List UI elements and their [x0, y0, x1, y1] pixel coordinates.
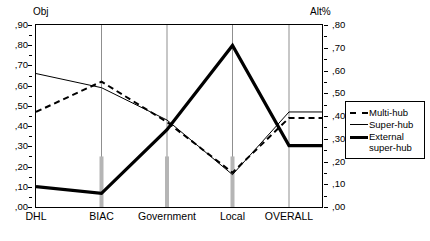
right-axis-tick-label: ,70: [332, 43, 345, 53]
left-axis-tick-label: ,30: [15, 141, 28, 151]
left-axis-tick-label: ,20: [15, 162, 28, 172]
left-axis-tick-label: ,10: [15, 182, 28, 192]
legend: Multi-hubSuper-hubExternal super-hub: [345, 101, 425, 159]
right-axis-tick-label: ,30: [332, 134, 345, 144]
right-axis-minor-tick: [324, 139, 327, 140]
left-axis-minor-tick: [29, 207, 32, 208]
right-axis-title: Alt%: [310, 6, 331, 17]
right-axis-minor-tick: [324, 127, 327, 128]
left-axis-minor-tick: [29, 167, 32, 168]
right-axis-tick-label: ,40: [332, 111, 345, 121]
right-axis-minor-tick: [324, 82, 327, 83]
category-label-government: Government: [138, 210, 196, 222]
legend-item: External super-hub: [349, 131, 421, 153]
right-axis-minor-tick: [324, 59, 327, 60]
left-axis-minor-tick: [29, 65, 32, 66]
right-axis-minor-tick: [324, 48, 327, 49]
category-label-dhl: DHL: [25, 210, 46, 222]
series-line-external-super-hub: [36, 45, 322, 193]
legend-item: Multi-hub: [349, 107, 421, 118]
right-axis-tick-label: ,80: [332, 20, 345, 30]
legend-label: Multi-hub: [369, 107, 408, 118]
series-line-super-hub: [36, 74, 322, 175]
category-label-local: Local: [220, 210, 245, 222]
legend-key-thick-solid-icon: [349, 131, 369, 142]
left-axis-tick-label: ,70: [15, 60, 28, 70]
right-axis-minor-tick: [324, 36, 327, 37]
right-axis-minor-tick: [324, 105, 327, 106]
right-axis-tick-label: ,20: [332, 157, 345, 167]
left-axis-minor-tick: [29, 116, 32, 117]
left-axis-minor-tick: [29, 136, 32, 137]
left-axis-title: Obj: [33, 6, 49, 17]
left-axis-tick-label: ,80: [15, 40, 28, 50]
right-axis-minor-tick: [324, 93, 327, 94]
left-axis-minor-tick: [29, 55, 32, 56]
left-axis-minor-tick: [29, 177, 32, 178]
left-axis-minor-tick: [29, 146, 32, 147]
right-axis-tick-label: ,10: [332, 179, 345, 189]
left-axis-tick-label: ,40: [15, 121, 28, 131]
left-axis-minor-tick: [29, 106, 32, 107]
right-axis-minor-tick: [324, 162, 327, 163]
left-axis-minor-tick: [29, 25, 32, 26]
right-axis-minor-tick: [324, 173, 327, 174]
chart-figure: Obj Alt% ,90,80,70,60,50,40,30,20,10,00 …: [0, 0, 430, 241]
right-axis-minor-tick: [324, 71, 327, 72]
left-axis-minor-tick: [29, 197, 32, 198]
right-axis-minor-tick: [324, 207, 327, 208]
right-axis-minor-tick: [324, 116, 327, 117]
left-axis-minor-tick: [29, 126, 32, 127]
right-axis-minor-tick: [324, 184, 327, 185]
left-axis-minor-tick: [29, 76, 32, 77]
left-axis-minor-tick: [29, 35, 32, 36]
legend-key-thin-solid-icon: [349, 119, 369, 130]
legend-key-dashed-icon: [349, 107, 369, 118]
legend-label: External super-hub: [369, 131, 412, 153]
right-axis-tick-label: ,50: [332, 88, 345, 98]
plot-lines: [36, 25, 322, 207]
left-axis-tick-label: ,60: [15, 81, 28, 91]
category-label-overall: OVERALL: [265, 210, 313, 222]
category-label-biac: BIAC: [89, 210, 114, 222]
legend-label: Super-hub: [369, 119, 413, 130]
left-axis-minor-tick: [29, 156, 32, 157]
left-axis-minor-tick: [29, 187, 32, 188]
right-axis-minor-tick: [324, 25, 327, 26]
left-axis-ticks: ,90,80,70,60,50,40,30,20,10,00: [5, 24, 31, 208]
right-axis-minor-tick: [324, 196, 327, 197]
plot-area: [35, 24, 323, 208]
right-axis-tick-label: ,60: [332, 66, 345, 76]
legend-item: Super-hub: [349, 119, 421, 130]
left-axis-minor-tick: [29, 96, 32, 97]
left-axis-minor-tick: [29, 45, 32, 46]
left-axis-tick-label: ,90: [15, 20, 28, 30]
category-axis-labels: DHLBIACGovernmentLocalOVERALL: [0, 210, 430, 230]
right-axis-minor-tick: [324, 150, 327, 151]
left-axis-minor-tick: [29, 86, 32, 87]
left-axis-tick-label: ,50: [15, 101, 28, 111]
